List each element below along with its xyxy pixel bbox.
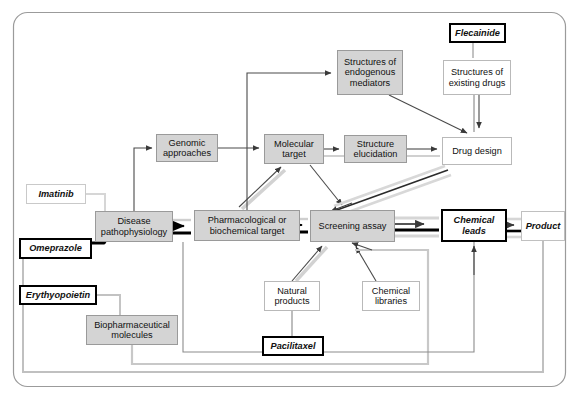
- edge-endogenous-drugdesign: [389, 95, 467, 133]
- node-label: Imatinib: [36, 189, 75, 199]
- node-structures-endogenous-mediators[interactable]: Structures of endogenous mediators: [337, 50, 403, 95]
- edge-natural-screening-shadow: [296, 247, 327, 281]
- edge-natural-screening: [292, 246, 322, 281]
- node-label: Erythyopoietin: [24, 290, 92, 300]
- node-flecainide[interactable]: Flecainide: [449, 23, 506, 43]
- node-label: Structures of endogenous mediators: [338, 57, 402, 88]
- node-label: Flecainide: [453, 28, 502, 38]
- edge-pharmtarget-moleculartarget: [239, 167, 281, 207]
- node-natural-products[interactable]: Natural products: [264, 281, 320, 311]
- node-pacilitaxel[interactable]: Pacilitaxel: [262, 336, 324, 356]
- node-label: Structures of existing drugs: [444, 67, 510, 88]
- edge-drugdesign-screening-light2: [340, 175, 451, 215]
- node-label: Structure elucidation: [345, 139, 406, 160]
- node-label: Product: [524, 221, 563, 231]
- node-genomic-approaches[interactable]: Genomic approaches: [156, 134, 218, 162]
- node-disease-pathophysiology[interactable]: Disease pathophysiology: [95, 211, 173, 242]
- edge-chemleads-feedback: [183, 242, 474, 352]
- node-molecular-target[interactable]: Molecular target: [264, 134, 324, 164]
- node-structures-existing-drugs[interactable]: Structures of existing drugs: [443, 60, 511, 95]
- node-structure-elucidation[interactable]: Structure elucidation: [344, 135, 407, 163]
- node-erythyopoietin[interactable]: Erythyopoietin: [19, 285, 97, 305]
- node-label: Screening assay: [317, 221, 389, 231]
- node-product[interactable]: Product: [521, 211, 565, 241]
- node-label: Chemical leads: [443, 215, 505, 236]
- node-biopharmaceutical-molecules[interactable]: Biopharmaceutical molecules: [86, 315, 178, 345]
- edge-disease-genomic: [134, 148, 152, 211]
- node-screening-assay[interactable]: Screening assay: [310, 210, 395, 242]
- node-label: Genomic approaches: [157, 138, 217, 159]
- node-label: Pacilitaxel: [269, 341, 318, 351]
- node-label: Omeprazole: [27, 243, 84, 253]
- node-chemical-leads[interactable]: Chemical leads: [441, 209, 507, 242]
- edge-moleculartarget-screening: [310, 165, 342, 205]
- node-label: Disease pathophysiology: [96, 216, 172, 237]
- edge-chemlibraries-screening: [356, 247, 376, 281]
- node-chemical-libraries[interactable]: Chemical libraries: [362, 281, 420, 311]
- node-pharmacological-biochemical-target[interactable]: Pharmacological or biochemical target: [194, 210, 300, 241]
- node-label: Biopharmaceutical molecules: [87, 320, 177, 341]
- edge-pharmtarget-moleculartarget-shadow: [242, 170, 285, 209]
- node-label: Molecular target: [265, 139, 323, 160]
- edge-drugdesign-screening-light1: [334, 166, 445, 206]
- node-label: Chemical libraries: [363, 286, 419, 307]
- node-imatinib[interactable]: Imatinib: [26, 184, 86, 204]
- node-label: Drug design: [450, 146, 504, 156]
- node-omeprazole[interactable]: Omeprazole: [19, 238, 92, 259]
- node-drug-design[interactable]: Drug design: [442, 137, 512, 165]
- diagram-canvas: Imatinib Omeprazole Erythyopoietin Disea…: [0, 0, 579, 399]
- node-label: Natural products: [265, 286, 319, 307]
- edge-drugdesign-screening-dark: [337, 170, 448, 210]
- node-label: Pharmacological or biochemical target: [195, 215, 299, 236]
